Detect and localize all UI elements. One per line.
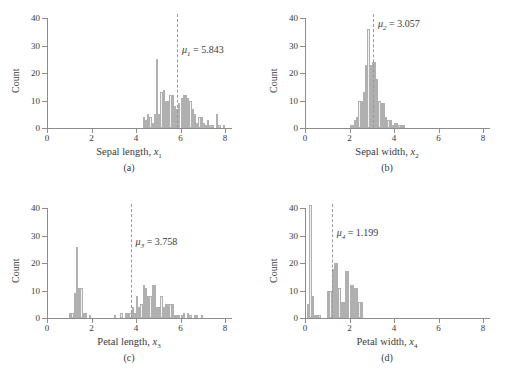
x-axis-tick-label: 4 xyxy=(384,134,404,143)
mean-line xyxy=(332,204,333,318)
panel-letter: (a) xyxy=(0,162,258,173)
x-axis-tick-label: 0 xyxy=(295,324,315,333)
x-axis-line xyxy=(47,128,232,129)
x-axis-label: Petal length, x3 xyxy=(0,336,258,350)
y-axis-tick-label: 40 xyxy=(18,14,40,23)
histogram-bar xyxy=(361,302,363,319)
x-axis-tick-label: 0 xyxy=(37,324,57,333)
histogram-bar xyxy=(114,315,116,318)
mean-line xyxy=(131,204,132,318)
y-axis-label: Count xyxy=(268,69,279,93)
y-axis-tick-label: 20 xyxy=(276,69,298,78)
y-axis-tick-label: 30 xyxy=(276,42,298,51)
y-axis-tick-label: 40 xyxy=(276,14,298,23)
y-axis-label: Count xyxy=(268,259,279,283)
histogram-bar xyxy=(223,125,225,128)
y-axis-tick-label: 20 xyxy=(18,259,40,268)
y-axis-tick-label: 40 xyxy=(18,204,40,213)
histogram-bar xyxy=(189,315,191,318)
panel-letter: (c) xyxy=(0,352,258,363)
chart-panel-b: 01020304002468CountSepal width, x2(b)μ2 … xyxy=(258,0,516,190)
y-axis-tick-label: 10 xyxy=(276,97,298,106)
x-axis-label: Sepal length, x1 xyxy=(0,146,258,160)
x-axis-tick-label: 0 xyxy=(295,134,315,143)
y-axis-tick-label: 0 xyxy=(18,124,40,133)
histogram-bar xyxy=(183,313,185,319)
x-axis-tick-label: 8 xyxy=(473,324,493,333)
x-axis-tick-label: 6 xyxy=(171,324,191,333)
x-axis-tick-label: 2 xyxy=(340,324,360,333)
mean-annotation: μ1 = 5.843 xyxy=(182,44,224,58)
x-axis-label: Petal width, x4 xyxy=(258,336,516,350)
y-axis-tick-label: 30 xyxy=(276,232,298,241)
histogram-bar xyxy=(85,313,87,319)
x-axis-tick-label: 0 xyxy=(37,134,57,143)
x-axis-label: Sepal width, x2 xyxy=(258,146,516,160)
y-axis-tick-label: 0 xyxy=(18,314,40,323)
x-axis-tick-label: 2 xyxy=(340,134,360,143)
x-axis-tick-label: 2 xyxy=(82,324,102,333)
x-axis-tick-label: 8 xyxy=(215,134,235,143)
histogram-bar xyxy=(201,315,203,318)
histogram-bar xyxy=(212,125,214,128)
figure-grid: 01020304002468CountSepal length, x1(a)μ1… xyxy=(0,0,516,381)
histogram-bar xyxy=(403,125,405,128)
y-axis-tick-label: 10 xyxy=(18,97,40,106)
mean-line xyxy=(177,14,178,128)
panel-letter: (d) xyxy=(258,352,516,363)
histogram-bar xyxy=(218,125,220,128)
y-axis-tick-label: 10 xyxy=(18,287,40,296)
x-axis-tick-label: 6 xyxy=(429,134,449,143)
y-axis-tick-label: 30 xyxy=(18,232,40,241)
histogram-bar xyxy=(318,315,320,318)
chart-panel-d: 01020304002468CountPetal width, x4(d)μ4 … xyxy=(258,190,516,380)
histogram-bars xyxy=(47,18,225,128)
mean-annotation: μ3 = 3.758 xyxy=(136,236,178,250)
y-axis-tick-label: 30 xyxy=(18,42,40,51)
y-axis-label: Count xyxy=(10,69,21,93)
histogram-bar xyxy=(196,315,198,318)
histogram-bar xyxy=(89,315,91,318)
y-axis-tick-label: 20 xyxy=(276,259,298,268)
x-axis-tick-label: 6 xyxy=(171,134,191,143)
x-axis-tick-label: 8 xyxy=(215,324,235,333)
mean-annotation: μ4 = 1.199 xyxy=(337,227,379,241)
x-axis-line xyxy=(47,318,232,319)
y-axis-label: Count xyxy=(10,259,21,283)
panel-letter: (b) xyxy=(258,162,516,173)
x-axis-tick-label: 2 xyxy=(82,134,102,143)
x-axis-tick-label: 8 xyxy=(473,134,493,143)
histogram-bar xyxy=(120,313,122,319)
x-axis-tick-label: 6 xyxy=(429,324,449,333)
mean-line xyxy=(373,14,374,128)
x-axis-tick-label: 4 xyxy=(126,134,146,143)
chart-panel-c: 01020304002468CountPetal length, x3(c)μ3… xyxy=(0,190,258,380)
y-axis-tick-label: 40 xyxy=(276,204,298,213)
y-axis-tick-label: 0 xyxy=(276,314,298,323)
histogram-bars xyxy=(305,18,483,128)
x-axis-tick-label: 4 xyxy=(384,324,404,333)
x-axis-line xyxy=(305,128,490,129)
x-axis-line xyxy=(305,318,490,319)
x-axis-tick-label: 4 xyxy=(126,324,146,333)
histogram-bars xyxy=(47,208,225,318)
mean-annotation: μ2 = 3.057 xyxy=(378,18,420,32)
y-axis-tick-label: 20 xyxy=(18,69,40,78)
y-axis-tick-label: 0 xyxy=(276,124,298,133)
chart-panel-a: 01020304002468CountSepal length, x1(a)μ1… xyxy=(0,0,258,190)
y-axis-tick-label: 10 xyxy=(276,287,298,296)
